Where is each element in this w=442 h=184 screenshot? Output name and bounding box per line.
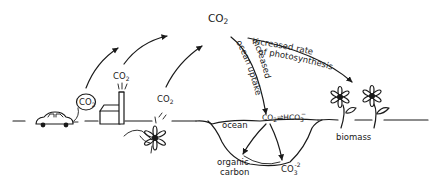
decay-co2-label: CO2 xyxy=(157,94,174,105)
smoke-lines xyxy=(118,83,127,89)
factory-co2-label: CO2 xyxy=(113,71,130,82)
emission-arrows xyxy=(86,36,202,88)
carbonate-label: CO3-2 xyxy=(281,161,301,176)
organic-carbon-label-1: organic xyxy=(217,157,249,167)
carbon-cycle-diagram: CO2 CO2 CO2 xyxy=(0,0,442,184)
car-co2-subscript: 2 xyxy=(92,101,96,108)
return-curve xyxy=(244,156,280,164)
organic-carbon-label-2: carbon xyxy=(220,167,249,177)
equilibrium-label: CO2⇌HCO3− xyxy=(262,110,306,123)
car-icon xyxy=(36,112,78,127)
biomass-label: biomass xyxy=(336,132,372,142)
flower-icon-2 xyxy=(362,86,389,129)
to-carbonate-arrow xyxy=(270,124,282,160)
car-co2-label: CO xyxy=(79,97,92,107)
exhaust-bubble: CO2 xyxy=(74,94,96,121)
ocean-label: ocean xyxy=(222,120,248,130)
svg-text:CO2: CO2 xyxy=(79,97,96,108)
flower-icon-1 xyxy=(330,87,356,129)
decaying-plant-icon xyxy=(124,113,166,153)
atmosphere-co2-label: CO2 xyxy=(208,12,229,26)
factory-icon xyxy=(100,92,124,124)
